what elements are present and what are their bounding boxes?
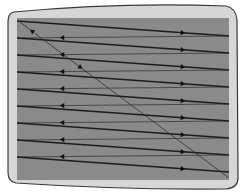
raster-scan-diagram — [0, 0, 245, 195]
